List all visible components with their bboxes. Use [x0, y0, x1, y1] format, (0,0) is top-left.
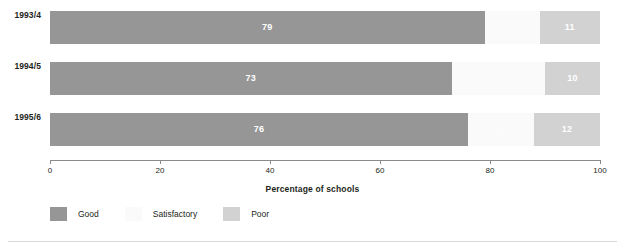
- segment-value: 12: [496, 125, 506, 134]
- segment-value: 10: [567, 74, 577, 83]
- bar-segment-good[interactable]: 79: [50, 11, 485, 44]
- category-label-1995-6: 1995/6: [14, 113, 41, 122]
- segment-value: 12: [562, 125, 572, 134]
- x-axis-line: [50, 160, 600, 161]
- legend-swatch-satisfactory: [125, 207, 142, 221]
- legend-item[interactable]: Poor: [223, 207, 269, 221]
- x-axis-tick-label: 80: [486, 167, 495, 175]
- bar-row: 1995/6 76 12 12: [50, 113, 600, 146]
- category-label-1994-5: 1994/5: [14, 62, 41, 71]
- x-axis-tick: [50, 160, 51, 164]
- x-axis-tick-label: 60: [376, 167, 385, 175]
- segment-value: 73: [246, 74, 256, 83]
- x-axis-tick-label: 20: [156, 167, 165, 175]
- segment-value: 79: [262, 23, 272, 32]
- x-axis-tick-label: 100: [593, 167, 606, 175]
- legend-label: Poor: [251, 210, 269, 219]
- segment-value: 76: [254, 125, 264, 134]
- plot-area: 1993/4 79 10 11 1994/5 73 17 10: [50, 0, 600, 160]
- segment-value: 10: [507, 23, 517, 32]
- legend-item[interactable]: Satisfactory: [125, 207, 197, 221]
- segment-value: 11: [565, 23, 575, 32]
- bar-segment-poor[interactable]: 12: [534, 113, 600, 146]
- x-axis-tick: [490, 160, 491, 164]
- bar-segment-satisfactory[interactable]: 10: [485, 11, 540, 44]
- category-label-1993-4: 1993/4: [14, 11, 41, 20]
- x-axis-tick: [380, 160, 381, 164]
- bar-segment-good[interactable]: 76: [50, 113, 468, 146]
- legend-swatch-poor: [223, 207, 240, 221]
- legend-item[interactable]: Good: [50, 207, 99, 221]
- x-axis-tick-label: 0: [48, 167, 52, 175]
- bar-row: 1994/5 73 17 10: [50, 62, 600, 95]
- bar-segment-poor[interactable]: 11: [540, 11, 601, 44]
- x-axis-tick-label: 40: [266, 167, 275, 175]
- bar-row: 1993/4 79 10 11: [50, 11, 600, 44]
- bar-segment-satisfactory[interactable]: 12: [468, 113, 534, 146]
- bottom-divider: [8, 241, 617, 242]
- x-axis-tick: [270, 160, 271, 164]
- segment-value: 17: [493, 74, 503, 83]
- bar-segment-satisfactory[interactable]: 17: [452, 62, 546, 95]
- bar-segment-good[interactable]: 73: [50, 62, 452, 95]
- legend-label: Satisfactory: [153, 210, 197, 219]
- x-axis-title: Percentage of schools: [0, 184, 625, 194]
- x-axis-tick: [600, 160, 601, 164]
- stacked-bar-chart: 1993/4 79 10 11 1994/5 73 17 10: [0, 0, 625, 250]
- legend-label: Good: [78, 210, 99, 219]
- bar-segment-poor[interactable]: 10: [545, 62, 600, 95]
- chart-legend: GoodSatisfactoryPoor: [50, 207, 295, 221]
- legend-swatch-good: [50, 207, 67, 221]
- x-axis-tick: [160, 160, 161, 164]
